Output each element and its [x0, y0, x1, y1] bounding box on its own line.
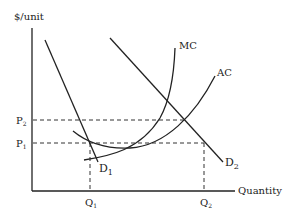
cost-demand-diagram: $/unit Quantity MC AC D1 D2 P2 P1 Q1 Q2 — [0, 0, 295, 215]
q2-label: Q2 — [200, 197, 212, 209]
q1-label: Q1 — [85, 197, 97, 209]
ac-label: AC — [216, 67, 232, 78]
mc-label: MC — [179, 40, 197, 51]
p2-label: P2 — [16, 115, 27, 127]
d1-label: D1 — [99, 162, 113, 177]
demand-curve-d1 — [45, 40, 98, 162]
y-axis-label: $/unit — [14, 11, 44, 22]
x-axis-label: Quantity — [238, 185, 282, 196]
p1-label: P1 — [16, 138, 27, 150]
d2-label: D2 — [225, 156, 239, 171]
